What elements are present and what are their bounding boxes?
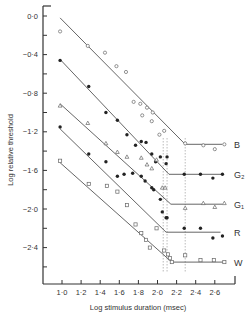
data-point [151,111,154,114]
data-point [140,140,143,143]
data-point [211,176,214,179]
data-point [145,106,148,109]
series-3: R [58,125,241,239]
data-point [163,129,166,132]
y-tick-label: 0·0 [27,12,38,21]
x-tick-label: 1·2 [76,288,87,297]
y-tick-label: −2·4 [23,243,38,252]
data-point [150,152,153,155]
data-point [183,173,186,176]
data-point [87,182,90,185]
data-point [116,174,119,177]
data-point [104,141,108,144]
data-point [86,121,90,124]
data-point [161,210,164,213]
data-point [221,173,224,176]
data-point [223,260,226,263]
x-tick-label: 1·8 [133,288,144,297]
data-point [131,172,134,175]
data-point [116,190,119,193]
y-tick-label: −0·4 [23,50,38,59]
data-point [134,144,137,147]
data-point [211,236,214,239]
data-point [158,133,161,136]
data-point [104,160,107,163]
data-point [134,223,137,226]
data-point [58,159,61,162]
data-point [141,114,144,117]
data-point [87,85,90,88]
data-point [144,141,147,144]
x-tick-label: 2·2 [171,288,182,297]
x-tick-label: 1·0 [57,288,68,297]
data-point [122,173,125,176]
data-point [221,234,224,237]
y-tick-label: −2·0 [23,205,38,214]
fit-line [60,104,222,204]
data-point [86,44,89,47]
series-0: B [58,18,240,151]
data-point [199,173,202,176]
data-point [166,253,169,256]
data-point [150,120,153,123]
data-point [116,119,119,122]
data-point [155,227,158,230]
data-point [139,156,143,159]
x-axis-label: Log stimulus duration (msec) [90,303,187,312]
data-point [184,142,187,145]
data-point [222,201,226,204]
data-point [201,201,205,204]
data-point [148,246,151,249]
threshold-duration-plot: 1·01·21·41·61·82·02·22·42·60·0−0·4−0·8−1… [0,0,246,319]
data-point [163,186,167,189]
x-tick-label: 2·4 [190,288,201,297]
data-point [58,125,61,128]
data-point [213,148,216,151]
data-point [165,216,168,219]
axes: 1·01·21·41·61·82·02·22·42·60·0−0·4−0·8−1… [23,6,235,297]
data-point [132,100,135,103]
data-point [145,163,149,166]
data-point [212,259,215,262]
y-tick-label: −1·2 [23,127,38,136]
data-point [155,158,159,161]
data-point [125,204,128,207]
data-point [125,133,128,136]
data-point [58,30,61,33]
data-point [183,227,186,230]
data-point [163,249,166,252]
data-point [213,205,217,208]
data-point [184,254,187,257]
x-tick-label: 1·4 [95,288,106,297]
data-point [143,179,146,182]
data-point [159,198,162,201]
data-point [152,188,155,191]
data-point [58,104,62,107]
series-label: B [234,140,240,150]
data-point [168,257,171,260]
data-point [104,111,107,114]
data-point [105,184,108,187]
data-point [170,260,173,263]
y-tick-label: −0·8 [23,89,38,98]
x-tick-label: 2·6 [209,288,220,297]
data-point [87,152,90,155]
series-label: R [234,228,241,238]
data-point [202,144,205,147]
data-point [124,70,127,73]
x-tick-label: 1·6 [114,288,125,297]
data-point [115,150,119,153]
series-4: W [58,159,243,267]
data-point [183,206,187,209]
data-point [139,102,142,105]
series-label: G₁ [234,200,244,210]
data-point [150,166,154,169]
fit-line [60,163,224,262]
data-point [159,155,162,158]
data-point [140,232,143,235]
data-point [115,65,118,68]
data-point [199,227,202,230]
data-point [164,162,167,165]
data-point [144,238,147,241]
y-axis-label: Log relative threshold [6,114,15,186]
